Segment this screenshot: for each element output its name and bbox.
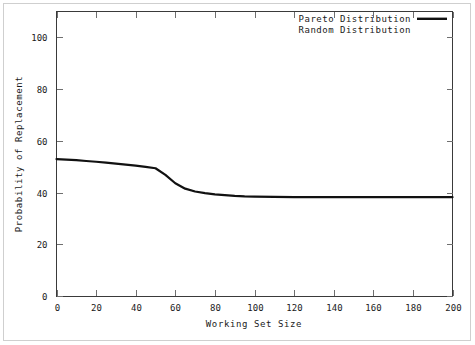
x-tick-label: 160 (365, 303, 381, 313)
y-tick-label: 0 (42, 292, 47, 302)
x-tick-label: 200 (445, 303, 461, 313)
y-tick-label: 60 (37, 137, 48, 147)
x-tick-label: 60 (170, 303, 181, 313)
x-tick-label: 120 (286, 303, 302, 313)
x-tick-label: 0 (55, 303, 60, 313)
line-chart-plot: 020406080100 020406080100120140160180200… (0, 0, 475, 345)
x-axis-ticks: 020406080100120140160180200 (55, 12, 462, 314)
x-tick-label: 20 (91, 303, 102, 313)
y-axis-ticks: 020406080100 (31, 33, 452, 302)
x-tick-label: 100 (247, 303, 263, 313)
x-tick-label: 180 (405, 303, 421, 313)
x-tick-label: 80 (210, 303, 221, 313)
y-tick-label: 80 (37, 85, 48, 95)
y-axis-title: Probability of Replacement (14, 76, 24, 232)
series-line-pareto-distribution (57, 159, 453, 197)
y-tick-label: 20 (37, 240, 48, 250)
plot-frame (57, 12, 453, 297)
chart-legend: Pareto DistributionRandom Distribution (299, 14, 447, 35)
x-tick-label: 140 (326, 303, 342, 313)
y-tick-label: 100 (31, 33, 47, 43)
x-tick-label: 40 (131, 303, 142, 313)
legend-label-0: Pareto Distribution (299, 14, 411, 24)
series-group (57, 159, 453, 197)
chart-figure: 020406080100 020406080100120140160180200… (0, 0, 475, 345)
legend-label-1: Random Distribution (299, 25, 411, 35)
y-tick-label: 40 (37, 189, 48, 199)
x-axis-title: Working Set Size (206, 319, 302, 329)
